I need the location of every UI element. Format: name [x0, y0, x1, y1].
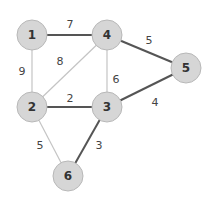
- edge-weight-1-4: 7: [67, 18, 74, 31]
- node-4: 4: [92, 20, 122, 50]
- edge-weight-4-3: 6: [113, 73, 120, 86]
- node-label: 2: [28, 100, 36, 114]
- node-label: 1: [28, 28, 36, 42]
- edge-weight-2-6: 5: [37, 139, 44, 152]
- node-3: 3: [92, 92, 122, 122]
- node-label: 4: [103, 28, 111, 42]
- node-label: 6: [64, 169, 72, 183]
- node-2: 2: [17, 92, 47, 122]
- nodes-group: 145236: [17, 20, 201, 191]
- node-label: 3: [103, 100, 111, 114]
- edge-weight-4-5: 5: [146, 34, 153, 47]
- edge-weight-1-2: 9: [19, 65, 26, 78]
- edge-weight-3-6: 3: [96, 139, 103, 152]
- edge-weight-2-3: 2: [67, 92, 74, 105]
- node-6: 6: [53, 161, 83, 191]
- weighted-graph: 798652453 145236: [0, 0, 214, 201]
- edge-weight-3-5: 4: [152, 96, 159, 109]
- node-5: 5: [171, 53, 201, 83]
- node-1: 1: [17, 20, 47, 50]
- node-label: 5: [182, 61, 190, 75]
- edge-weight-2-4: 8: [57, 55, 64, 68]
